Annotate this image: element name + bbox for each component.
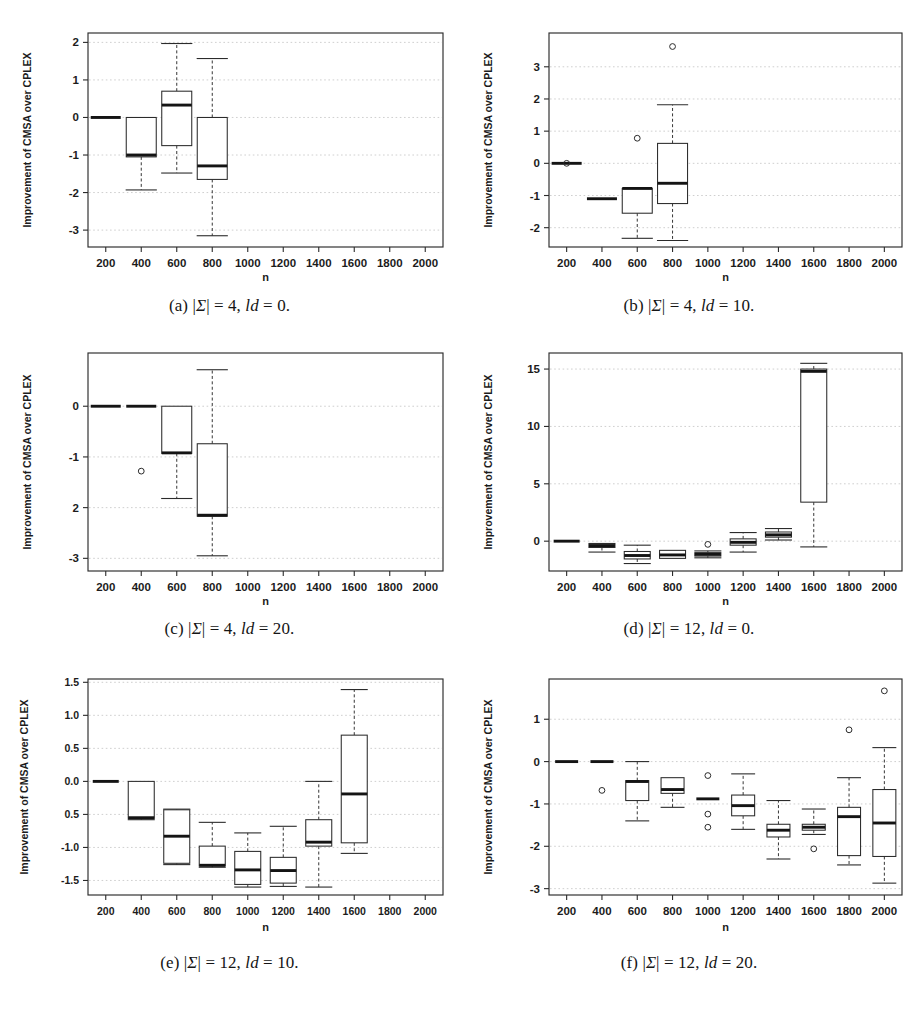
x-tick-label: 1600 <box>341 581 367 593</box>
x-tick-label: 1800 <box>377 257 403 269</box>
outlier-point <box>846 727 852 733</box>
x-tick-label: 1400 <box>766 581 792 593</box>
caption-prefix-b: (b) <box>624 296 644 315</box>
panel-plot-f: 10-1-2-320040060080010001200140016001800… <box>459 655 919 1033</box>
box <box>341 735 367 843</box>
y-axis-label: Improvement of CMSA over CPLEX <box>482 699 494 874</box>
y-tick-label: 0 <box>534 157 540 169</box>
x-tick-label: 600 <box>628 257 647 269</box>
caption-body-f: |Σ| = 12, ld = 20. <box>642 953 757 972</box>
x-tick-label: 1200 <box>270 581 296 593</box>
boxplot-group <box>126 406 156 474</box>
y-tick-label: -2 <box>69 187 79 199</box>
box <box>126 117 156 156</box>
x-tick-label: 200 <box>557 905 576 917</box>
box <box>128 781 154 818</box>
x-tick-label: 200 <box>96 581 115 593</box>
y-tick-label: -3 <box>69 552 79 564</box>
boxplot-group <box>161 406 192 498</box>
box <box>235 851 261 884</box>
caption-prefix-c: (c) <box>165 619 184 638</box>
outlier-point <box>705 824 711 830</box>
x-tick-label: 800 <box>203 257 222 269</box>
x-tick-label: 400 <box>132 581 151 593</box>
x-tick-label: 1000 <box>695 905 721 917</box>
boxplot-group <box>731 774 755 829</box>
outlier-point <box>705 773 711 779</box>
x-tick-label: 600 <box>168 905 186 917</box>
outlier-point <box>634 135 640 141</box>
y-tick-label: 0.0 <box>64 775 79 787</box>
x-tick-label: 600 <box>628 905 647 917</box>
x-tick-label: 1000 <box>235 257 261 269</box>
x-tick-label: 1800 <box>378 905 402 917</box>
panel-plot-e: 1.51.00.50.00.5-1.0-1.520040060080010001… <box>0 655 459 1033</box>
boxplot-group <box>765 529 792 540</box>
panel-e: 1.51.00.50.00.5-1.0-1.520040060080010001… <box>0 655 459 1033</box>
panel-plot-c: 0-12-32004006008001000120014001600180020… <box>0 325 459 655</box>
boxplot-group <box>625 762 649 821</box>
y-tick-label: -3 <box>530 883 540 895</box>
boxplot-group <box>128 781 155 819</box>
panel-f: 10-1-2-320040060080010001200140016001800… <box>459 655 919 1033</box>
panel-caption-a: (a) |Σ| = 4, ld = 0. <box>0 296 459 316</box>
caption-prefix-e: (e) <box>160 953 179 972</box>
box <box>197 117 227 179</box>
x-tick-label: 1000 <box>236 905 260 917</box>
y-axis-label: Improvement of CMSA over CPLEX <box>18 699 30 874</box>
outlier-point <box>599 787 605 793</box>
panel-a: 210-1-2-32004006008001000120014001600180… <box>0 0 459 325</box>
boxplot-group <box>126 117 157 189</box>
x-tick-label: 1800 <box>377 581 403 593</box>
boxplot-group <box>161 44 192 174</box>
box <box>622 188 652 213</box>
boxplot-group <box>622 135 653 238</box>
x-tick-label: 1800 <box>836 905 862 917</box>
x-tick-label: 400 <box>132 257 151 269</box>
boxplot-group <box>696 773 719 830</box>
outlier-point <box>705 541 711 547</box>
x-tick-label: 1200 <box>272 905 296 917</box>
x-tick-label: 200 <box>97 905 115 917</box>
y-tick-label: -1 <box>530 798 541 810</box>
x-tick-label: 1000 <box>235 581 261 593</box>
box <box>162 91 192 145</box>
boxplot-group <box>163 809 190 864</box>
x-tick-label: 1000 <box>695 581 721 593</box>
x-tick-label: 1400 <box>766 257 792 269</box>
x-tick-label: 1400 <box>307 905 331 917</box>
plot-frame <box>549 33 902 247</box>
outlier-point <box>881 688 887 694</box>
y-tick-label: -1 <box>530 190 541 202</box>
caption-prefix-f: (f) <box>621 953 638 972</box>
y-tick-label: -1.0 <box>61 841 79 853</box>
y-tick-label: 0 <box>534 756 540 768</box>
x-tick-label: 800 <box>663 905 682 917</box>
boxplot-group <box>802 809 826 852</box>
y-tick-label: -2 <box>530 222 540 234</box>
y-axis-label: Improvement of CMSA over CPLEX <box>21 52 33 227</box>
outlier-point <box>138 468 144 474</box>
panel-plot-b: 3210-1-220040060080010001200140016001800… <box>459 0 919 325</box>
y-axis-label: Improvement of CMSA over CPLEX <box>482 374 494 549</box>
y-axis-label: Improvement of CMSA over CPLEX <box>21 374 33 549</box>
x-tick-label: 400 <box>592 257 611 269</box>
boxplot-group <box>305 781 332 887</box>
boxplot-group <box>270 826 297 886</box>
x-tick-label: 2000 <box>872 257 898 269</box>
box <box>199 846 225 866</box>
x-tick-label: 1400 <box>306 581 332 593</box>
plot-frame <box>549 353 902 571</box>
y-tick-label: 2 <box>73 36 79 48</box>
outlier-point <box>670 44 676 50</box>
x-axis-label: n <box>262 921 269 933</box>
boxplot-group <box>197 59 228 236</box>
caption-body-d: |Σ| = 12, ld = 0. <box>648 619 754 638</box>
boxplot-group <box>766 801 790 859</box>
x-tick-label: 1800 <box>836 257 862 269</box>
panel-b: 3210-1-220040060080010001200140016001800… <box>459 0 919 325</box>
x-tick-label: 800 <box>203 905 221 917</box>
x-tick-label: 800 <box>663 257 682 269</box>
x-tick-label: 1600 <box>343 905 367 917</box>
y-tick-label: 0 <box>73 111 79 123</box>
